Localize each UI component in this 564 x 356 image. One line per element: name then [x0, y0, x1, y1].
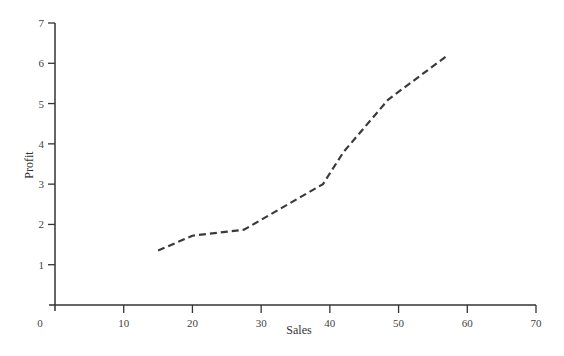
y-tick-label: 7 — [39, 17, 45, 29]
x-tick-label: 60 — [462, 317, 474, 329]
x-tick-label: 20 — [187, 317, 199, 329]
y-tick-label: 2 — [39, 218, 45, 230]
x-axis-title: Sales — [286, 323, 312, 337]
y-tick-label: 6 — [39, 57, 45, 69]
line-chart: 0102030405060701234567 Sales Profit — [0, 0, 564, 356]
x-tick-label: 30 — [256, 317, 268, 329]
x-tick-label: 40 — [324, 317, 336, 329]
tick-labels: 0102030405060701234567 — [37, 17, 542, 329]
y-tick-label: 4 — [39, 138, 45, 150]
y-axis-title: Profit — [22, 151, 36, 179]
y-tick-label: 3 — [39, 178, 45, 190]
y-tick-label: 5 — [39, 98, 45, 110]
data-line — [158, 56, 447, 251]
y-tick-label: 1 — [39, 259, 45, 271]
x-tick-label: 70 — [531, 317, 543, 329]
tick-marks — [48, 23, 536, 313]
axes — [49, 23, 536, 311]
x-tick-label: 50 — [393, 317, 405, 329]
x-tick-label: 10 — [118, 317, 130, 329]
x-tick-label: 0 — [37, 317, 43, 329]
